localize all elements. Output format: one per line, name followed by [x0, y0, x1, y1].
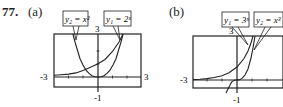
- label-y1-b: y₁ = 3ˣ: [223, 15, 249, 25]
- label-y1-a: y₁ = 2ˣ: [105, 14, 131, 24]
- xtick-3-a: 3: [144, 72, 149, 82]
- ytick-neg1-a: -1: [94, 93, 102, 103]
- ytick-3-a: 3: [95, 24, 100, 34]
- graphs: y₂ = x² y₁ = 2ˣ 3 -3 3 -1 y₁ = 3ˣ y₂ = x…: [0, 0, 283, 107]
- graph-a: [54, 34, 141, 92]
- graph-b: [193, 36, 283, 93]
- label-y2-b: y₂ = x³: [255, 15, 281, 25]
- xtick-neg3-a: -3: [40, 72, 48, 82]
- ytick-neg1-b: -1: [233, 95, 241, 105]
- label-y2-a: y₂ = x²: [64, 14, 90, 24]
- ytick-3-b: 3: [229, 26, 234, 36]
- xtick-neg3-b: -3: [180, 75, 188, 85]
